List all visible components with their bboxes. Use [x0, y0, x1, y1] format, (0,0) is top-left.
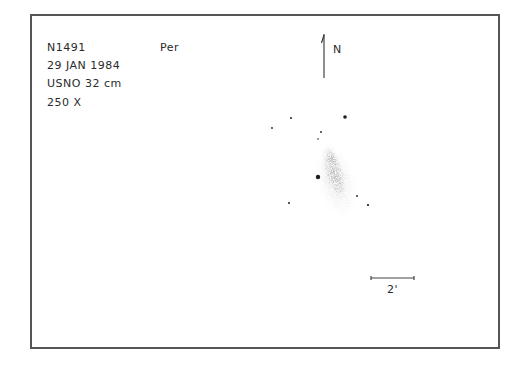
star [317, 138, 319, 140]
north-arrow-icon [322, 34, 325, 78]
scale-bar-label: 2' [387, 284, 398, 296]
star [356, 195, 358, 197]
star [290, 117, 292, 119]
star [367, 204, 369, 206]
north-label: N [333, 44, 342, 56]
star [288, 202, 290, 204]
star [271, 127, 273, 129]
star [316, 175, 320, 179]
star [320, 131, 322, 133]
galaxy-ngc1491 [304, 132, 368, 228]
scale-bar [371, 276, 414, 280]
galaxy-sketch [0, 0, 522, 369]
star [343, 115, 347, 119]
